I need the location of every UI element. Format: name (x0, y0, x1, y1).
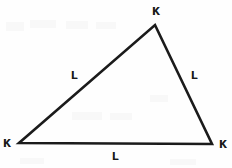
geometry-figure: K K K L L L (0, 0, 232, 168)
triangle-outline (19, 25, 212, 144)
vertex-label-bottom-left: K (3, 138, 10, 149)
triangle-svg (0, 0, 232, 168)
side-label-right: L (191, 70, 197, 81)
side-label-bottom: L (112, 151, 118, 162)
side-label-left: L (71, 70, 77, 81)
vertex-label-apex: K (152, 6, 159, 17)
vertex-label-bottom-right: K (219, 139, 226, 150)
